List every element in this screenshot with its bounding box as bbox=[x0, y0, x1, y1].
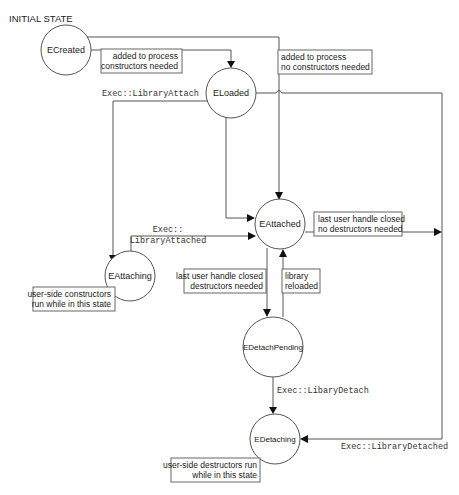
label-line: last user handle closed bbox=[176, 271, 263, 281]
label-line: last user handle closed bbox=[318, 214, 405, 224]
note-line: run while in this state bbox=[32, 299, 112, 309]
label-line: constructors needed bbox=[101, 61, 178, 71]
label-attaching-to-attached-2: LibraryAttached bbox=[130, 236, 207, 246]
label-attached-to-detached: last user handle closed no destructors n… bbox=[314, 212, 405, 236]
label-attached-to-pending: last user handle closed destructors need… bbox=[176, 269, 266, 293]
state-label: EAttached bbox=[259, 219, 301, 229]
label-line: no destructors needed bbox=[318, 224, 403, 234]
diagram-title: INITIAL STATE bbox=[9, 13, 73, 24]
state-edetachpending: EDetachPending bbox=[243, 317, 303, 377]
note-line: while in this state bbox=[191, 470, 257, 480]
state-ecreated: ECreated bbox=[41, 25, 91, 75]
note-attaching: user-side constructors run while in this… bbox=[27, 287, 115, 311]
state-label: EDetachPending bbox=[243, 343, 303, 352]
note-detaching: user-side destructors run while in this … bbox=[163, 458, 260, 482]
label-loaded-to-attaching: Exec::LibraryAttach bbox=[102, 89, 199, 99]
state-eattached: EAttached bbox=[255, 199, 305, 249]
state-eloaded: ELoaded bbox=[206, 68, 256, 118]
state-edetaching: EDetaching bbox=[250, 414, 300, 464]
label-line: reloaded bbox=[285, 281, 318, 291]
label-loaded-to-detaching: Exec::LibraryDetached bbox=[341, 442, 448, 452]
state-label: ELoaded bbox=[213, 88, 249, 98]
transition-loaded-to-attached bbox=[226, 117, 255, 222]
state-label: ECreated bbox=[47, 45, 85, 55]
label-attaching-to-attached-1: Exec:: bbox=[153, 225, 184, 235]
state-label: EDetaching bbox=[254, 435, 295, 444]
state-diagram: INITIAL STATE bbox=[0, 0, 459, 495]
note-line: user-side constructors bbox=[27, 289, 111, 299]
label-line: destructors needed bbox=[190, 281, 263, 291]
label-line: added to process bbox=[113, 51, 178, 61]
label-line: no constructors needed bbox=[281, 62, 370, 72]
label-pending-to-attached: library reloaded bbox=[282, 269, 320, 293]
state-label: EAttaching bbox=[108, 271, 152, 281]
note-line: user-side destructors run bbox=[163, 460, 257, 470]
label-line: added to process bbox=[281, 52, 346, 62]
label-created-to-loaded: added to process constructors needed bbox=[101, 49, 182, 73]
label-created-to-attached: added to process no constructors needed bbox=[278, 50, 372, 74]
transition-pending-to-detaching bbox=[269, 376, 277, 414]
label-pending-to-detaching: Exec::LibaryDetach bbox=[277, 386, 369, 396]
label-line: library bbox=[285, 271, 309, 281]
